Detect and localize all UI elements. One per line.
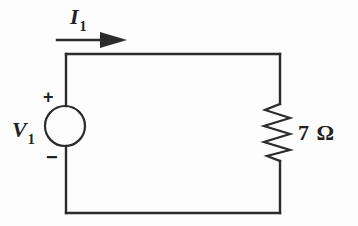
minus-sign: − bbox=[46, 147, 58, 167]
source-label: V1 bbox=[12, 119, 34, 141]
circuit-canvas bbox=[0, 0, 358, 226]
source-subscript: 1 bbox=[28, 132, 35, 147]
source-symbol: V bbox=[12, 117, 27, 142]
current-arrow-head-icon bbox=[100, 32, 127, 48]
circuit-diagram: I1 V1 + − 7 Ω bbox=[0, 0, 358, 226]
current-label: I1 bbox=[70, 6, 86, 28]
voltage-source-icon bbox=[45, 106, 85, 146]
plus-sign: + bbox=[43, 88, 54, 106]
resistor-zigzag-icon bbox=[264, 104, 290, 161]
resistor-value-label: 7 Ω bbox=[298, 120, 335, 146]
current-subscript: 1 bbox=[80, 19, 87, 34]
current-symbol: I bbox=[70, 4, 79, 29]
